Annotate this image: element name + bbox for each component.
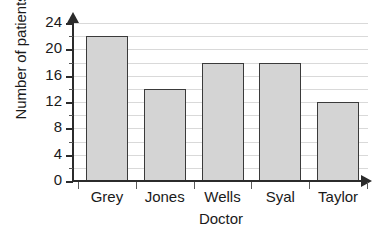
y-axis-major-tick (66, 155, 73, 157)
bar (259, 63, 301, 182)
y-axis-minor-tick (69, 168, 73, 169)
y-axis-tick-label: 12 (18, 92, 62, 109)
bar (144, 89, 186, 181)
x-axis-line (73, 180, 362, 182)
y-axis-tick-label: 24 (18, 13, 62, 30)
y-axis-major-tick (66, 181, 73, 183)
x-axis-category-label: Jones (136, 188, 194, 205)
y-axis-tick-labels: 04812162024 (18, 0, 62, 237)
y-axis-tick-label: 20 (18, 39, 62, 56)
y-axis-minor-tick (69, 142, 73, 143)
y-axis-minor-tick (69, 63, 73, 64)
y-axis-tick-label: 8 (18, 118, 62, 135)
y-axis-major-tick (66, 128, 73, 130)
x-axis-tick (367, 182, 368, 189)
x-axis-category-label: Grey (78, 188, 136, 205)
y-axis-major-tick (66, 23, 73, 25)
gridline (73, 23, 368, 24)
bar (202, 63, 244, 182)
x-axis-category-label: Taylor (309, 188, 367, 205)
y-axis-minor-tick (69, 89, 73, 90)
x-axis-category-label: Wells (194, 188, 252, 205)
y-axis-major-tick (66, 49, 73, 51)
y-axis-major-tick (66, 76, 73, 78)
x-axis-title: Doctor (73, 210, 369, 227)
y-axis-major-tick (66, 102, 73, 104)
x-axis-category-label: Syal (251, 188, 309, 205)
bar-chart: Number of patients 04812162024 Doctor Gr… (0, 0, 389, 237)
y-axis-arrow-icon (67, 12, 79, 23)
y-axis-tick-label: 0 (18, 171, 62, 188)
y-axis-tick-label: 4 (18, 145, 62, 162)
bar (86, 36, 128, 181)
y-axis-minor-tick (69, 115, 73, 116)
y-axis-tick-label: 16 (18, 66, 62, 83)
bar (317, 102, 359, 181)
y-axis-minor-tick (69, 36, 73, 37)
